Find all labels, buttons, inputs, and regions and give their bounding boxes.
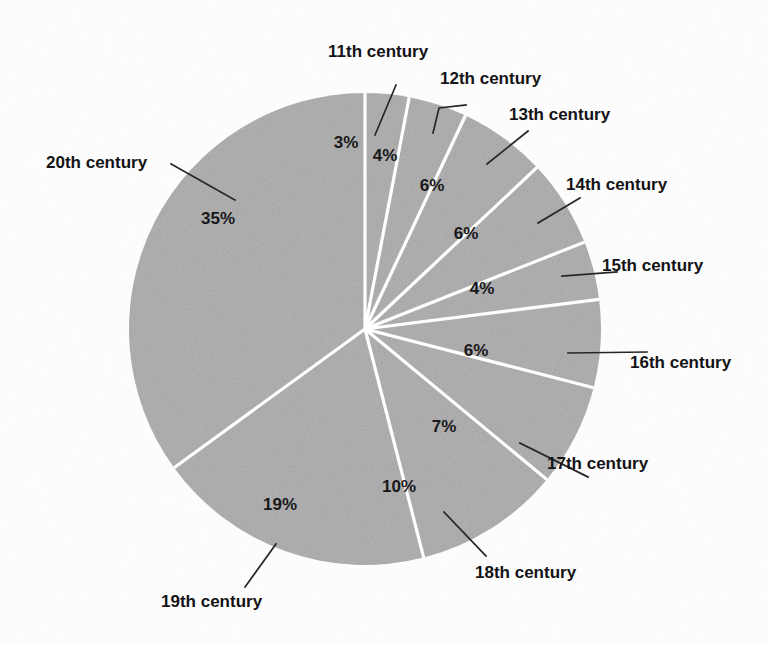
category-label-19th-century: 19th century (161, 592, 263, 611)
percent-label-16th-century: 6% (464, 341, 489, 360)
category-label-11th-century: 11th century (328, 42, 429, 61)
category-label-13th-century: 13th century (509, 105, 611, 124)
percent-label-18th-century: 10% (382, 477, 416, 496)
percent-label-12th-century: 4% (373, 146, 398, 165)
percent-label-13th-century: 6% (420, 176, 445, 195)
category-label-20th-century: 20th century (46, 153, 148, 172)
category-label-14th-century: 14th century (566, 175, 668, 194)
category-label-16th-century: 16th century (630, 353, 732, 372)
percent-label-14th-century: 6% (454, 224, 479, 243)
percent-label-11th-century: 3% (334, 133, 359, 152)
percent-label-17th-century: 7% (432, 417, 457, 436)
pie-chart-figure: 3%4%6%6%4%6%7%10%19%35% 11th century12th… (0, 0, 768, 646)
percent-label-20th-century: 35% (201, 209, 235, 228)
category-label-18th-century: 18th century (475, 563, 577, 582)
category-label-17th-century: 17th century (547, 454, 649, 473)
pie-chart-canvas: 3%4%6%6%4%6%7%10%19%35% 11th century12th… (0, 0, 768, 646)
percent-label-15th-century: 4% (470, 279, 495, 298)
category-label-12th-century: 12th century (440, 69, 542, 88)
category-label-15th-century: 15th century (602, 256, 704, 275)
percent-label-19th-century: 19% (263, 495, 297, 514)
